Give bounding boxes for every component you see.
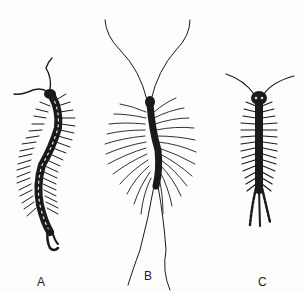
specimen-label-b: B [144, 269, 152, 283]
centipede-b-drawing [105, 20, 196, 290]
centipede-illustration: A B C [0, 0, 306, 292]
specimen-label-c: C [258, 275, 267, 289]
illustration-drawing [0, 0, 306, 292]
specimen-label-a: A [37, 275, 45, 289]
centipede-a-drawing [14, 58, 75, 250]
centipede-c-drawing [226, 74, 294, 226]
